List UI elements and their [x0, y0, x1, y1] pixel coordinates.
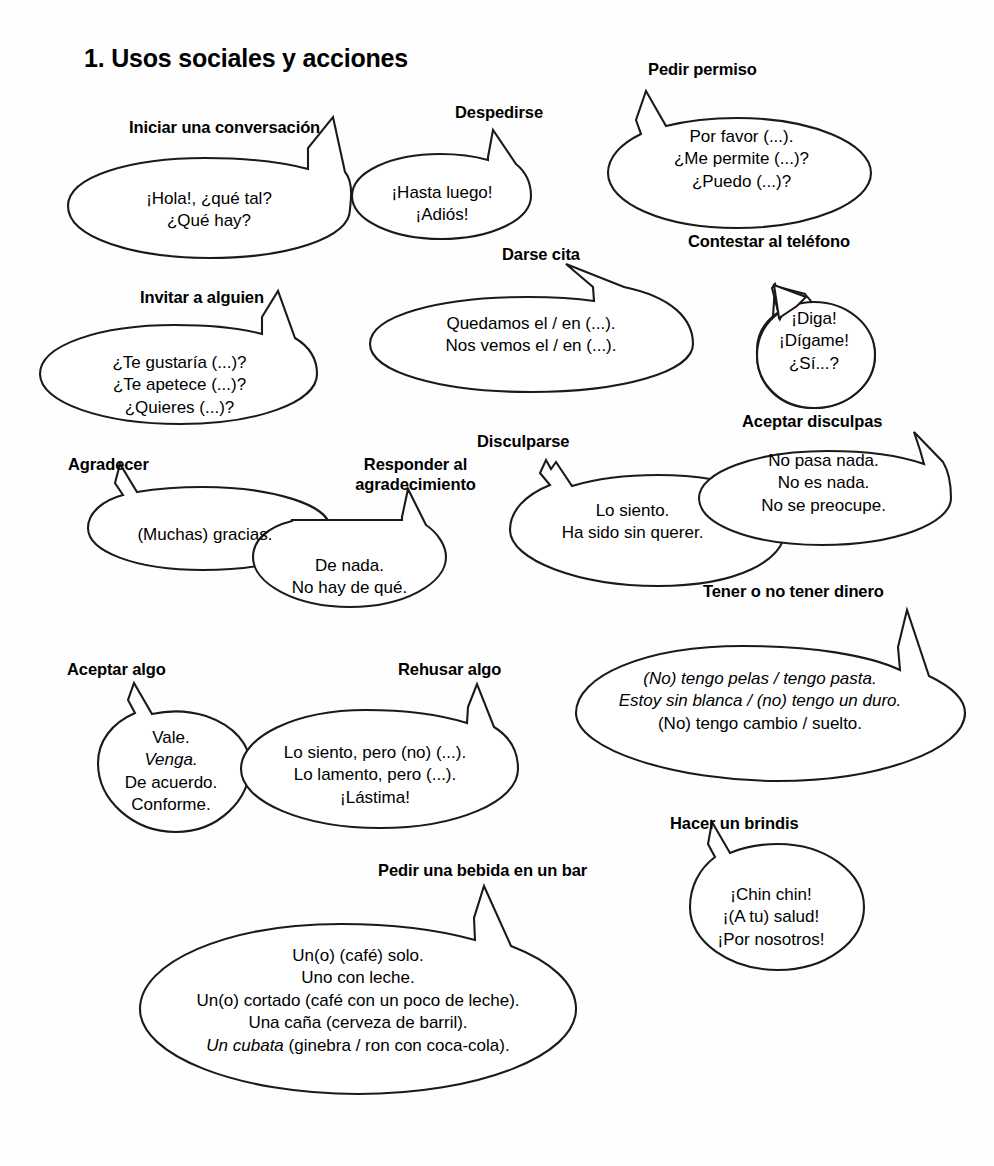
bubble-text-line: Uno con leche. [152, 967, 564, 989]
bubble-text-line: Lo siento. [521, 500, 744, 522]
bubble-text-pedir-permiso: Por favor (...).¿Me permite (...)?¿Puedo… [632, 126, 851, 193]
bubble-text-line: ¡Adiós! [362, 204, 522, 226]
bubble-text-line: ¡Hola!, ¿qué tal? [98, 188, 320, 210]
bubble-text-line: ¿Puedo (...)? [632, 171, 851, 193]
label-agradecer: Agradecer [68, 455, 149, 475]
bubble-text-pedir-una-bebida-en-un-bar: Un(o) (café) solo.Uno con leche.Un(o) co… [152, 945, 564, 1057]
bubble-text-line: ¿Me permite (...)? [632, 148, 851, 170]
bubble-text-line: Lo siento, pero (no) (...). [254, 742, 496, 764]
label-pedir-permiso: Pedir permiso [648, 60, 757, 80]
bubble-text-tener-o-no-tener-dinero: (No) tengo pelas / tengo pasta.Estoy sin… [588, 668, 932, 735]
bubble-text-line: No es nada. [713, 472, 934, 494]
bubble-text-responder-al-agradecimiento: De nada.No hay de qué. [268, 555, 431, 600]
label-responder-al-agradecimiento: Responder al agradecimiento [337, 455, 494, 495]
bubble-text-line: (Muchas) gracias. [101, 524, 309, 546]
bubble-text-aceptar-disculpas: No pasa nada.No es nada.No se preocupe. [713, 450, 934, 517]
page-title: 1. Usos sociales y acciones [84, 44, 408, 73]
label-iniciar-una-conversacion: Iniciar una conversación [129, 118, 320, 138]
label-despedirse: Despedirse [455, 103, 543, 123]
label-contestar-al-telefono: Contestar al teléfono [688, 232, 850, 252]
bubble-text-line: No pasa nada. [713, 450, 934, 472]
bubble-text-line: ¡(A tu) salud! [698, 906, 844, 928]
bubble-text-contestar-al-telefono: ¡Diga!¡Dígame!¿Sí...? [762, 308, 866, 375]
bubble-text-line: Un(o) (café) solo. [152, 945, 564, 967]
bubble-text-line: ¿Sí...? [762, 353, 866, 375]
bubble-text-line: Quedamos el / en (...). [399, 313, 663, 335]
bubble-text-darse-cita: Quedamos el / en (...).Nos vemos el / en… [399, 313, 663, 358]
bubble-text-disculparse: Lo siento.Ha sido sin querer. [521, 500, 744, 545]
label-disculparse: Disculparse [477, 432, 569, 452]
bubble-text-aceptar-algo: Vale.Venga.De acuerdo.Conforme. [104, 727, 238, 817]
bubble-text-line: De acuerdo. [104, 772, 238, 794]
bubble-text-line: Ha sido sin querer. [521, 522, 744, 544]
bubble-text-line: No hay de qué. [268, 577, 431, 599]
bubble-text-line: (No) tengo pelas / tengo pasta. [588, 668, 932, 690]
bubble-text-line: ¡Por nosotros! [698, 929, 844, 951]
bubble-text-line: De nada. [268, 555, 431, 577]
bubble-text-iniciar-una-conversacion: ¡Hola!, ¿qué tal?¿Qué hay? [98, 188, 320, 233]
bubble-text-line: ¡Hasta luego! [362, 182, 522, 204]
worksheet-page: 1. Usos sociales y acciones [0, 0, 994, 1166]
bubble-text-line: Venga. [104, 749, 238, 771]
bubble-text-line: Por favor (...). [632, 126, 851, 148]
label-darse-cita: Darse cita [502, 245, 580, 265]
label-aceptar-disculpas: Aceptar disculpas [742, 412, 882, 432]
label-hacer-un-brindis: Hacer un brindis [670, 814, 799, 834]
bubble-text-line: Vale. [104, 727, 238, 749]
bubble-text-line: ¡Lástima! [254, 787, 496, 809]
bubble-text-agradecer: (Muchas) gracias. [101, 524, 309, 546]
bubble-text-line: Un(o) cortado (café con un poco de leche… [152, 990, 564, 1012]
bubble-text-line: Nos vemos el / en (...). [399, 335, 663, 357]
bubble-text-despedirse: ¡Hasta luego!¡Adiós! [362, 182, 522, 227]
bubble-text-line: No se preocupe. [713, 495, 934, 517]
bubble-text-line: Conforme. [104, 794, 238, 816]
bubble-text-line: Una caña (cerveza de barril). [152, 1012, 564, 1034]
bubble-text-line: ¿Qué hay? [98, 210, 320, 232]
label-invitar-a-alguien: Invitar a alguien [140, 288, 264, 308]
bubble-text-line: ¡Diga! [762, 308, 866, 330]
bubble-text-line: Estoy sin blanca / (no) tengo un duro. [588, 690, 932, 712]
bubble-text-hacer-un-brindis: ¡Chin chin!¡(A tu) salud!¡Por nosotros! [698, 884, 844, 951]
bubble-text-line: (No) tengo cambio / suelto. [588, 713, 932, 735]
label-rehusar-algo: Rehusar algo [398, 660, 501, 680]
label-aceptar-algo: Aceptar algo [67, 660, 166, 680]
bubble-text-line: ¡Chin chin! [698, 884, 844, 906]
bubble-text-line: ¿Te apetece (...)? [55, 374, 304, 396]
label-tener-o-no-tener-dinero: Tener o no tener dinero [703, 582, 884, 602]
bubble-text-line: ¿Quieres (...)? [55, 397, 304, 419]
label-pedir-una-bebida-en-un-bar: Pedir una bebida en un bar [378, 861, 587, 881]
bubble-text-line: ¿Te gustaría (...)? [55, 352, 304, 374]
bubble-text-line: ¡Dígame! [762, 330, 866, 352]
bubble-text-invitar-a-alguien: ¿Te gustaría (...)?¿Te apetece (...)?¿Qu… [55, 352, 304, 419]
bubble-text-line: Lo lamento, pero (...). [254, 764, 496, 786]
bubble-text-rehusar-algo: Lo siento, pero (no) (...).Lo lamento, p… [254, 742, 496, 809]
bubble-text-line: Un cubata (ginebra / ron con coca-cola). [152, 1035, 564, 1057]
